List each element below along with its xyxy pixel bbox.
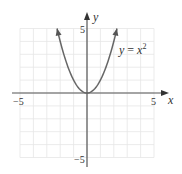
equation-exponent: 2 bbox=[142, 42, 146, 51]
y-axis bbox=[84, 12, 90, 167]
x-min-tick-label: −5 bbox=[13, 96, 24, 107]
y-min-tick-label: −5 bbox=[74, 154, 85, 165]
curve-equation-label: y = x2 bbox=[118, 42, 146, 57]
parabola-graph: y x −5 5 5 −5 y = x2 bbox=[0, 0, 182, 174]
x-axis bbox=[12, 90, 169, 96]
x-axis-label: x bbox=[167, 93, 174, 107]
y-max-tick-label: 5 bbox=[80, 24, 85, 35]
x-max-tick-label: 5 bbox=[151, 96, 156, 107]
equation-equals: = bbox=[124, 43, 137, 57]
y-axis-label: y bbox=[92, 10, 99, 24]
y-axis-arrow-icon bbox=[84, 12, 90, 20]
